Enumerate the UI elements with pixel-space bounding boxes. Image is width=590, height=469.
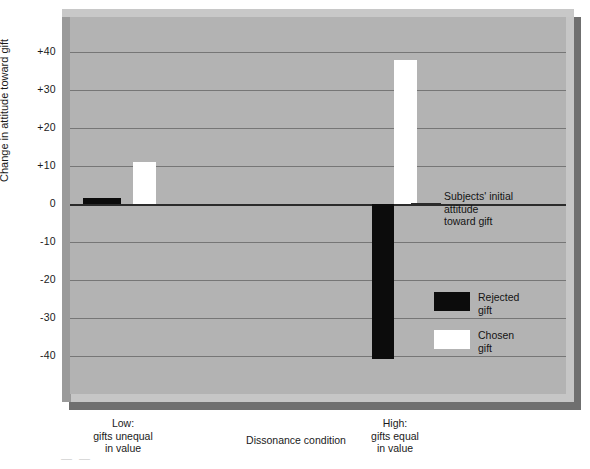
bar-chosen-high — [394, 60, 417, 204]
bar-rejected-high — [372, 204, 394, 359]
gridline-minus-10 — [70, 242, 566, 243]
x-axis-title: Dissonance condition — [196, 434, 396, 446]
caption-artifact: — — — [61, 452, 92, 464]
bar-rejected-low — [83, 198, 121, 204]
legend-label-rejected-line1: Rejected — [478, 291, 519, 304]
y-tick-label-minus-10: -10 — [14, 235, 56, 247]
x-category-low-line1: Low: — [48, 417, 198, 430]
frame-bevel-top — [62, 9, 574, 17]
legend-swatch-chosen — [434, 330, 470, 349]
y-tick-label-minus-40: -40 — [14, 349, 56, 361]
legend-label-rejected: Rejected gift — [478, 291, 519, 316]
figure-container: +40+30+20+100-10-20-30-40 Change in atti… — [0, 0, 590, 469]
y-tick-label-minus-30: -30 — [14, 311, 56, 323]
gridline-minus-20 — [70, 280, 566, 281]
x-category-high-line1: High: — [320, 417, 470, 430]
x-category-low-line2: gifts unequal — [48, 430, 198, 443]
y-axis-label: Change in attitude toward gift — [0, 0, 10, 182]
legend-label-rejected-line2: gift — [478, 304, 519, 317]
gridline-minus-40 — [70, 356, 566, 357]
zero-reference-annotation: Subjects' initial attitude toward gift — [444, 190, 513, 228]
gridline-plus-20 — [70, 128, 566, 129]
annotation-line-1: Subjects' initial — [444, 190, 513, 203]
x-category-low: Low: gifts unequal in value — [48, 417, 198, 455]
y-tick-label-plus-10: +10 — [14, 159, 56, 171]
annotation-line-2: attitude — [444, 203, 513, 216]
gridline-plus-30 — [70, 90, 566, 91]
annotation-line-3: toward gift — [444, 215, 513, 228]
gridline-minus-30 — [70, 318, 566, 319]
y-tick-label-plus-30: +30 — [14, 83, 56, 95]
legend-label-chosen-line2: gift — [478, 342, 514, 355]
y-tick-label-plus-20: +20 — [14, 121, 56, 133]
y-tick-label-0: 0 — [14, 197, 56, 209]
y-tick-label-minus-20: -20 — [14, 273, 56, 285]
y-tick-label-plus-40: +40 — [14, 45, 56, 57]
legend-swatch-rejected — [434, 292, 470, 311]
annotation-leader-line — [411, 203, 441, 204]
legend-label-chosen-line1: Chosen — [478, 329, 514, 342]
bar-chosen-low — [133, 162, 156, 204]
gridline-plus-40 — [70, 52, 566, 53]
legend-label-chosen: Chosen gift — [478, 329, 514, 354]
